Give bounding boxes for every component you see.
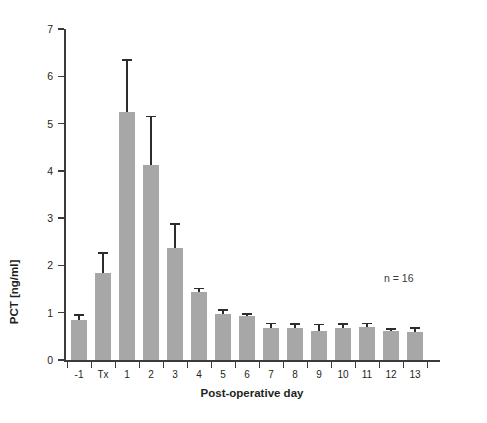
sample-size-annotation: n = 16 xyxy=(384,272,414,284)
x-axis-tick-label: 2 xyxy=(148,370,154,380)
x-axis-tick-label: 3 xyxy=(172,370,178,380)
error-bar-cap xyxy=(386,328,396,330)
x-axis-tick-label: Tx xyxy=(97,370,108,380)
error-bar-stem xyxy=(102,252,104,273)
y-axis-line xyxy=(64,29,66,361)
y-axis-tick: 6 xyxy=(58,76,64,77)
chart-figure: 01234567 -1Tx12345678910111213 Post-oper… xyxy=(0,0,487,423)
x-axis-tick xyxy=(283,361,284,368)
x-axis-tick xyxy=(139,361,140,368)
error-bar-cap xyxy=(170,223,180,225)
y-axis-tick-label: 6 xyxy=(47,71,53,82)
x-axis-tick xyxy=(91,361,92,368)
bar xyxy=(215,314,232,360)
x-axis-tick-label: 12 xyxy=(385,370,396,380)
y-axis-tick-label: 0 xyxy=(47,355,53,366)
x-axis-tick xyxy=(427,361,428,368)
error-bar-cap xyxy=(266,323,276,325)
bar xyxy=(407,332,424,360)
x-axis-tick-label: 5 xyxy=(220,370,226,380)
error-bar-cap xyxy=(218,309,228,311)
bar xyxy=(263,328,280,360)
x-axis-tick-label: 9 xyxy=(316,370,322,380)
error-bar-cap xyxy=(146,116,156,118)
x-axis-title: Post-operative day xyxy=(64,387,440,399)
error-bar-stem xyxy=(150,116,152,165)
x-axis-tick-label: 8 xyxy=(292,370,298,380)
y-axis-tick: 3 xyxy=(58,217,64,218)
x-axis-tick xyxy=(403,361,404,368)
bar xyxy=(95,273,112,360)
bar xyxy=(287,328,304,360)
x-axis-tick-label: 4 xyxy=(196,370,202,380)
error-bar-stem xyxy=(174,223,176,248)
x-axis-tick-label: 11 xyxy=(362,370,372,380)
bar xyxy=(143,165,160,360)
x-axis-tick xyxy=(163,361,164,368)
x-axis-tick-label: 6 xyxy=(244,370,250,380)
x-axis-tick-label: 1 xyxy=(124,370,130,380)
error-bar-cap xyxy=(122,59,132,61)
error-bar-stem xyxy=(126,59,128,112)
error-bar-cap xyxy=(338,323,348,325)
error-bar-cap xyxy=(410,327,420,329)
y-axis-tick: 2 xyxy=(58,265,64,266)
error-bar-cap xyxy=(242,313,252,315)
y-axis-tick-label: 1 xyxy=(47,307,53,318)
x-axis-tick xyxy=(235,361,236,368)
x-axis-line xyxy=(64,360,440,362)
error-bar-cap xyxy=(290,323,300,325)
y-axis-title: PCT [ng/ml] xyxy=(8,232,20,352)
bar xyxy=(191,292,208,360)
bar xyxy=(311,331,328,360)
error-bar-cap xyxy=(362,323,372,325)
x-axis-tick xyxy=(211,361,212,368)
x-axis-tick-label: 7 xyxy=(268,370,274,380)
x-axis-tick-label: 10 xyxy=(337,370,348,380)
y-axis-tick-label: 3 xyxy=(47,213,53,224)
bar xyxy=(71,320,88,360)
y-axis-tick-label: 2 xyxy=(47,260,53,271)
y-axis-tick-label: 7 xyxy=(47,24,53,35)
x-axis-tick xyxy=(187,361,188,368)
y-axis-tick: 5 xyxy=(58,123,64,124)
bar xyxy=(383,331,400,360)
y-axis-tick: 7 xyxy=(58,28,64,29)
x-axis-tick xyxy=(307,361,308,368)
x-axis-tick xyxy=(115,361,116,368)
y-axis-tick: 1 xyxy=(58,312,64,313)
x-axis-tick-label: 13 xyxy=(409,370,420,380)
error-bar-cap xyxy=(98,252,108,254)
x-axis-tick xyxy=(379,361,380,368)
error-bar-cap xyxy=(74,314,84,316)
x-axis-tick xyxy=(67,361,68,368)
bar xyxy=(167,248,184,360)
bar xyxy=(119,112,136,360)
bar xyxy=(239,316,256,360)
x-axis-tick-label: -1 xyxy=(75,370,84,380)
bar xyxy=(359,327,376,360)
x-axis-tick xyxy=(355,361,356,368)
error-bar-cap xyxy=(194,288,204,290)
x-axis-tick xyxy=(259,361,260,368)
y-axis-tick-label: 4 xyxy=(47,166,53,177)
y-axis-tick: 4 xyxy=(58,170,64,171)
x-axis-tick xyxy=(331,361,332,368)
error-bar-cap xyxy=(314,324,324,326)
bar xyxy=(335,328,352,360)
y-axis-tick-label: 5 xyxy=(47,118,53,129)
